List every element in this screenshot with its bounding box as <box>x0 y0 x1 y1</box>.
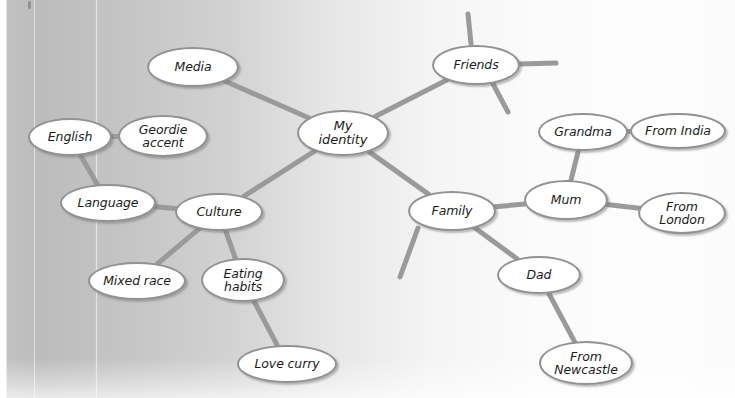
node-lovecurry[interactable]: Love curry <box>237 345 337 383</box>
node-culture[interactable]: Culture <box>175 193 263 231</box>
link-dad-to-fromnewc <box>549 293 575 341</box>
node-grandma[interactable]: Grandma <box>538 113 628 151</box>
node-label: From Newcastle <box>554 350 617 377</box>
node-english[interactable]: English <box>28 118 112 156</box>
node-fromlondon[interactable]: From London <box>638 192 726 234</box>
link-family-to-mum <box>495 204 525 207</box>
node-label: Family <box>432 204 473 218</box>
node-label: From India <box>645 124 711 138</box>
empty-stub-friends-2 <box>520 63 556 64</box>
link-family-to-dad <box>475 228 517 259</box>
node-friends[interactable]: Friends <box>432 45 520 85</box>
node-geordie[interactable]: Geordie accent <box>118 115 208 157</box>
node-label: My identity <box>319 119 368 147</box>
empty-stub-family-4 <box>400 228 418 277</box>
empty-stub-friends-1 <box>468 14 471 44</box>
node-mixedrace[interactable]: Mixed race <box>88 262 186 300</box>
node-label: English <box>48 130 92 144</box>
node-identity[interactable]: My identity <box>297 110 389 156</box>
link-eating-to-lovecurry <box>254 301 277 345</box>
node-label: Geordie accent <box>139 123 188 150</box>
node-label: From London <box>659 200 704 227</box>
link-culture-to-eating <box>226 231 236 259</box>
link-culture-to-mixedrace <box>158 229 199 264</box>
link-identity-to-friends <box>375 80 447 117</box>
node-label: Culture <box>196 205 241 219</box>
link-culture-to-language <box>155 207 176 209</box>
node-label: Friends <box>453 58 498 72</box>
link-language-to-english <box>81 155 98 184</box>
node-label: Dad <box>527 268 552 282</box>
link-mum-to-grandma <box>571 151 578 180</box>
link-identity-to-culture <box>244 151 315 196</box>
node-label: Eating habits <box>223 267 262 294</box>
node-fromindia[interactable]: From India <box>630 113 726 149</box>
node-dad[interactable]: Dad <box>497 256 581 294</box>
link-identity-to-media <box>225 81 308 118</box>
node-label: Media <box>174 60 211 74</box>
node-label: Mum <box>551 193 582 207</box>
node-label: Grandma <box>554 125 611 139</box>
node-fromnewc[interactable]: From Newcastle <box>539 341 633 385</box>
empty-stub-friends-3 <box>492 82 508 112</box>
link-mum-to-fromlondon <box>607 205 639 209</box>
link-identity-to-family <box>369 152 428 194</box>
node-label: Language <box>78 196 139 210</box>
node-family[interactable]: Family <box>408 191 496 231</box>
node-eating[interactable]: Eating habits <box>201 258 285 302</box>
node-mum[interactable]: Mum <box>524 180 608 220</box>
node-language[interactable]: Language <box>60 184 156 222</box>
node-media[interactable]: Media <box>147 47 239 87</box>
node-label: Love curry <box>254 357 319 371</box>
mindmap-canvas: My identityMediaFriendsCultureFamilyEngl… <box>0 0 735 398</box>
node-label: Mixed race <box>103 274 171 288</box>
